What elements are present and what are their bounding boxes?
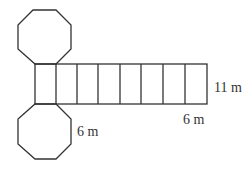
- bottom-octagon: [18, 104, 71, 159]
- prism-net-diagram: 11 m 6 m 6 m: [0, 0, 250, 170]
- rectangle-strip: [35, 64, 207, 104]
- octagon-side-label: 6 m: [77, 124, 99, 139]
- rect-width-label: 6 m: [183, 112, 205, 127]
- height-label: 11 m: [214, 80, 242, 95]
- top-octagon: [18, 10, 71, 64]
